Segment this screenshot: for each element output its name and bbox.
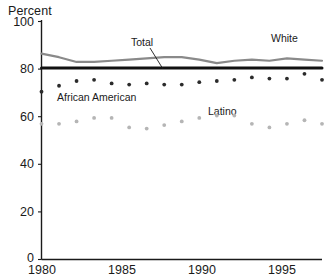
plot-area [0, 0, 325, 280]
data-point [320, 78, 324, 82]
data-point [268, 126, 272, 130]
data-point [285, 122, 289, 126]
data-point [180, 83, 184, 87]
data-point [145, 81, 149, 85]
data-point [75, 120, 79, 124]
data-point [162, 83, 166, 87]
data-point [75, 79, 79, 83]
data-point [215, 114, 219, 118]
data-point [250, 122, 254, 126]
data-point [303, 72, 307, 76]
data-point [110, 116, 114, 120]
data-point [232, 78, 236, 82]
data-point [162, 123, 166, 127]
percent-line-chart: Percent 100 80 60 40 20 0 1980 1985 1990… [0, 0, 325, 280]
data-point [127, 83, 131, 87]
data-point [57, 84, 61, 88]
data-point [57, 122, 61, 126]
data-point [215, 79, 219, 83]
data-point [127, 126, 131, 130]
axis-lines [38, 20, 322, 260]
series-dots-african-american [40, 72, 324, 94]
data-point [145, 127, 149, 131]
series-line-white [42, 54, 323, 64]
data-point [303, 118, 307, 122]
data-series-group [40, 54, 324, 131]
data-point [40, 90, 44, 94]
data-point [320, 122, 324, 126]
data-point [180, 120, 184, 124]
data-point [40, 122, 44, 126]
data-point [197, 116, 201, 120]
series-dots-latino [40, 114, 324, 131]
data-point [92, 78, 96, 82]
data-point [250, 76, 254, 80]
data-point [197, 80, 201, 84]
data-point [268, 77, 272, 81]
data-point [285, 77, 289, 81]
data-point [232, 114, 236, 118]
data-point [92, 116, 96, 120]
data-point [110, 81, 114, 85]
